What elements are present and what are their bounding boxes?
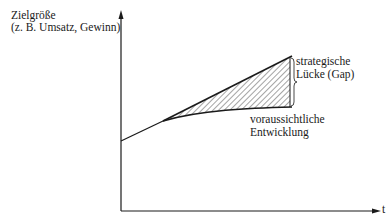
gap-label-line1: strategische [296, 55, 354, 67]
strategic-gap-label: strategische Lücke (Gap) [296, 55, 354, 80]
y-axis-label: Zielgröße (z. B. Umsatz, Gewinn) [11, 9, 120, 33]
y-axis-label-line1: Zielgröße [11, 9, 120, 21]
initial-trend-line [121, 121, 163, 141]
x-axis-arrow-icon [372, 209, 381, 214]
y-axis-label-line2: (z. B. Umsatz, Gewinn) [11, 21, 120, 33]
dev-label-line2: Entwicklung [250, 126, 325, 138]
gap-analysis-diagram [0, 0, 391, 220]
dev-label-line1: voraussichtliche [250, 113, 325, 125]
gap-label-line2: Lücke (Gap) [296, 68, 354, 80]
expected-development-label: voraussichtliche Entwicklung [250, 113, 325, 138]
x-axis-label: t [382, 203, 385, 215]
